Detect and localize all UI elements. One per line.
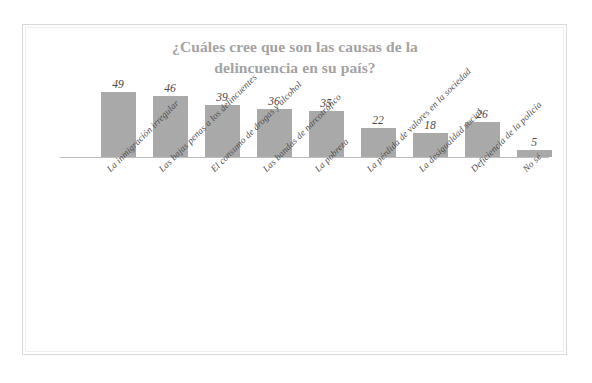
- bar-value-label: 49: [92, 78, 144, 90]
- chart-title-line-1: ¿Cuáles cree que son las causas de la: [80, 36, 510, 57]
- chart-figure: ¿Cuáles cree que son las causas de la de…: [0, 0, 592, 383]
- chart-title-line-2: delincuencia en su país?: [80, 57, 510, 78]
- chart-title: ¿Cuáles cree que son las causas de la de…: [80, 36, 510, 78]
- bar-value-label: 46: [144, 82, 196, 94]
- x-axis-line: [60, 157, 549, 158]
- bar-value-label: 5: [508, 136, 560, 148]
- bar-value-label: 22: [352, 114, 404, 126]
